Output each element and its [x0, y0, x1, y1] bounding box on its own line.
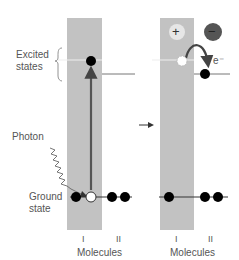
- ground-label-line1: Ground: [29, 191, 62, 203]
- electron-excited-ii-right: [200, 69, 210, 79]
- ground-state-label: Ground state: [29, 191, 62, 215]
- right-molecule-i: I: [175, 234, 178, 244]
- electron-excited-left: [86, 56, 96, 66]
- electron-ground-i-left: [71, 192, 81, 202]
- electron-symbol: e⁻: [213, 55, 224, 66]
- left-molecules-label: Molecules: [77, 247, 122, 259]
- electron-transfer-arrow: [186, 45, 208, 64]
- plus-sign: +: [172, 24, 180, 39]
- ground-label-line2: state: [29, 203, 62, 215]
- right-molecule-ii: II: [208, 234, 213, 244]
- electron-ground-ii-b-left: [120, 192, 130, 202]
- energy-diagram: [0, 0, 239, 260]
- right-molecules-label: Molecules: [170, 247, 215, 259]
- hole-ground-i-left: [86, 192, 96, 202]
- excited-states-brace: [55, 48, 62, 81]
- electron-ground-ii-b-right: [213, 192, 223, 202]
- excited-states-label: Excited states: [16, 49, 49, 73]
- excited-label-line1: Excited: [16, 49, 49, 61]
- photon-label: Photon: [12, 131, 44, 143]
- excited-label-line2: states: [16, 61, 49, 73]
- electron-ground-ii-a-left: [107, 192, 117, 202]
- left-molecule-i: I: [82, 234, 85, 244]
- minus-sign: −: [208, 24, 216, 39]
- electron-ground-i-right: [164, 192, 174, 202]
- left-molecule-ii: II: [116, 234, 121, 244]
- photon-wave: [50, 148, 83, 195]
- hole-excited-i-right: [177, 56, 187, 66]
- electron-ground-ii-a-right: [200, 192, 210, 202]
